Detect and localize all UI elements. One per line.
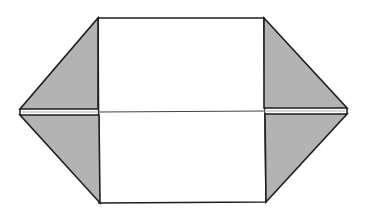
origami-fold-diagram	[0, 0, 367, 215]
center-rectangle	[98, 18, 266, 203]
